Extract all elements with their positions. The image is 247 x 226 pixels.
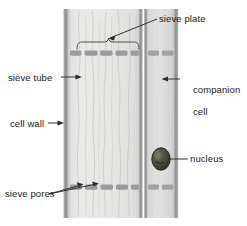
- sieve-plate-bar: [85, 51, 98, 56]
- label-companion-cell: companion cell: [182, 73, 240, 128]
- label-companion-cell-line2: cell: [193, 106, 208, 117]
- phloem-diagram: sieve plate sieve tube cell wall sieve p…: [0, 0, 247, 226]
- sieve-plate-bar: [131, 185, 139, 190]
- left-cell-wall: [64, 9, 69, 218]
- sieve-plate-bar: [131, 51, 140, 56]
- sieve-plate-bar: [116, 185, 128, 190]
- companion-left-cell-wall: [144, 9, 147, 218]
- sieve-plate-bar: [101, 185, 114, 190]
- inner-right-cell-wall: [139, 9, 143, 218]
- right-cell-wall: [174, 9, 178, 218]
- sieve-plate-bar: [116, 51, 128, 56]
- nucleus: [152, 148, 170, 170]
- sieve-plate-bar: [100, 51, 113, 56]
- sieve-plate-bar: [148, 185, 159, 190]
- label-cell-wall: cell wall: [10, 118, 44, 129]
- upper-sieve-plate: [70, 51, 174, 56]
- sieve-plate-bar: [70, 51, 82, 56]
- lower-sieve-plate: [70, 185, 174, 190]
- label-sieve-plate: sieve plate: [159, 13, 206, 24]
- cell-wall-arrowhead: [58, 120, 65, 125]
- label-sieve-pores: sieve pores: [5, 188, 55, 199]
- sieve-plate-bar: [162, 51, 174, 56]
- sieve-plate-bar: [162, 185, 174, 190]
- label-nucleus: nucleus: [190, 153, 223, 164]
- label-sieve-tube: sieve tube: [8, 72, 52, 83]
- sieve-plate-bar: [148, 51, 159, 56]
- label-companion-cell-line1: companion: [193, 84, 240, 95]
